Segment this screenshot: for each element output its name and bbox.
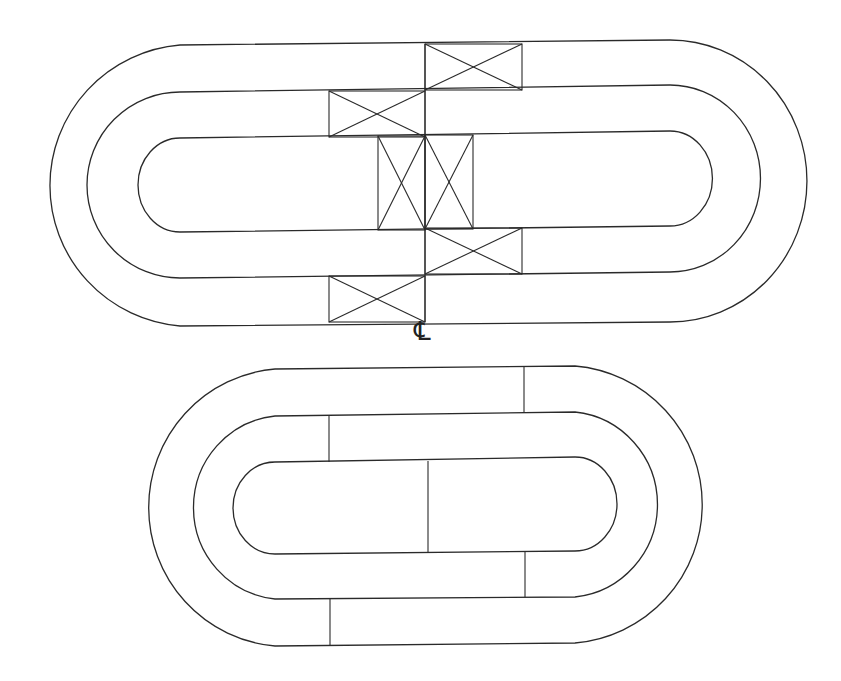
crossed-block-center-right	[425, 135, 473, 229]
lower-inner-ring	[233, 457, 617, 554]
upper-outer-ring	[50, 40, 807, 326]
lower-outer-ring	[149, 366, 703, 646]
crossed-block-top-outer	[425, 44, 522, 90]
upper-oval	[50, 40, 807, 326]
lower-middle-ring	[193, 412, 657, 599]
crossed-block-bottom-outer	[329, 276, 425, 322]
centerline-symbol: ℄	[414, 318, 431, 344]
crossed-block-bottom-middle	[425, 228, 522, 274]
upper-middle-ring	[87, 85, 760, 278]
crossed-block-top-middle	[329, 91, 425, 137]
crossed-block-center-left	[378, 136, 425, 230]
lower-oval	[149, 366, 703, 646]
